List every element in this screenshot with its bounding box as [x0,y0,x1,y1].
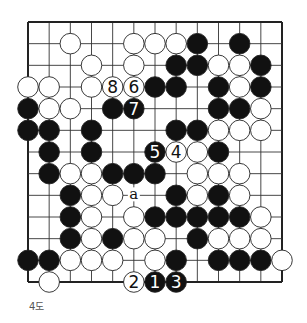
black-stone [60,185,81,206]
white-stone [229,120,250,141]
white-stone [124,33,145,54]
white-stone [187,185,208,206]
white-stone [251,98,272,119]
white-stone [145,33,166,54]
black-stone [251,55,272,76]
white-stone [18,77,39,98]
black-stone [102,98,123,119]
white-stone [81,163,102,184]
black-stone [39,163,60,184]
white-stone [251,207,272,228]
move-number: 1 [150,272,161,292]
black-stone [208,250,229,271]
white-stone [81,207,102,228]
black-stone [251,250,272,271]
white-stone [166,33,187,54]
black-stone [166,185,187,206]
black-stone [39,120,60,141]
black-stone [102,228,123,249]
white-stone [208,55,229,76]
black-stone [60,207,81,228]
point-marker-label: a [129,185,138,203]
black-stone [39,142,60,163]
white-stone [60,163,81,184]
black-stone [229,250,250,271]
black-stone [166,207,187,228]
white-stone [81,55,102,76]
move-number: 4 [171,142,182,162]
move-number: 2 [128,272,139,292]
white-stone [272,250,293,271]
black-stone [81,120,102,141]
black-stone: 5 [145,142,166,163]
black-stone [166,55,187,76]
white-stone [229,185,250,206]
white-stone [145,228,166,249]
white-stone [60,98,81,119]
white-stone [124,228,145,249]
black-stone [187,33,208,54]
white-stone [60,33,81,54]
move-number: 5 [150,142,161,162]
black-stone [229,207,250,228]
black-stone [81,142,102,163]
black-stone [208,98,229,119]
black-stone [145,163,166,184]
black-stone [18,120,39,141]
white-stone [229,228,250,249]
black-stone [166,77,187,98]
move-number: 8 [107,77,118,97]
black-stone [187,55,208,76]
black-stone: 1 [145,272,166,293]
black-stone [187,228,208,249]
black-stone [187,120,208,141]
white-stone [81,77,102,98]
move-number: 6 [128,77,139,97]
white-stone [187,163,208,184]
black-stone [102,163,123,184]
black-stone [166,250,187,271]
black-stone [60,228,81,249]
white-stone [145,250,166,271]
white-stone: 4 [166,142,187,163]
black-stone [229,98,250,119]
white-stone [251,228,272,249]
black-stone [187,207,208,228]
white-stone [81,185,102,206]
white-stone [81,250,102,271]
white-stone [39,272,60,293]
diagram-caption: 4도 [29,298,44,313]
black-stone [208,207,229,228]
move-number: 3 [171,272,182,292]
black-stone [39,250,60,271]
white-stone: 8 [102,77,123,98]
black-stone [208,77,229,98]
white-stone [60,250,81,271]
black-stone [18,250,39,271]
black-stone [208,142,229,163]
white-stone [124,207,145,228]
black-stone [145,207,166,228]
white-stone [81,228,102,249]
white-stone: 6 [124,77,145,98]
white-stone: 2 [124,272,145,293]
black-stone [229,33,250,54]
white-stone [229,163,250,184]
black-stone [166,120,187,141]
black-stone: 3 [166,272,187,293]
white-stone [208,228,229,249]
go-board-diagram: a 86754213 [0,0,307,323]
white-stone [229,77,250,98]
white-stone [251,120,272,141]
white-stone [187,142,208,163]
black-stone [124,163,145,184]
move-number: 7 [128,99,139,119]
white-stone [102,250,123,271]
black-stone: 7 [124,98,145,119]
white-stone [39,98,60,119]
white-stone [208,120,229,141]
black-stone [208,185,229,206]
white-stone [229,55,250,76]
white-stone [102,185,123,206]
black-stone [251,77,272,98]
